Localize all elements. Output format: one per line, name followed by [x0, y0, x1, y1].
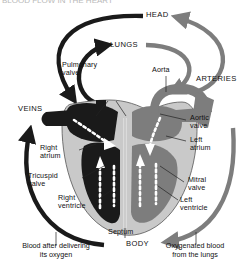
- label-left-atrium: Left atrium: [190, 136, 211, 153]
- label-arteries: ARTERIES: [196, 74, 237, 83]
- label-veins: VEINS: [18, 104, 43, 113]
- label-septum: Septum: [108, 228, 133, 236]
- label-tricuspid-valve: Tricuspid valve: [28, 172, 58, 189]
- label-pulmonary-valve: Pulmonary valve: [62, 61, 97, 78]
- label-mitral-valve: Mitral valve: [188, 176, 206, 193]
- arc-head-to-veins: [59, 16, 143, 100]
- caption-deoxygenated: Blood after delivering its oxygen: [4, 242, 108, 259]
- caption-oxygenated: Oxygenated blood from the lungs: [146, 242, 244, 259]
- label-right-ventricle: Right ventricle: [58, 194, 86, 211]
- label-aorta: Aorta: [152, 66, 170, 74]
- label-lungs: LUNGS: [110, 40, 138, 49]
- label-right-atrium: Right atrium: [40, 144, 61, 161]
- label-left-ventricle: Left ventricle: [180, 196, 208, 213]
- label-head: HEAD: [146, 10, 169, 19]
- label-aortic-valve: Aortic valve: [190, 114, 209, 131]
